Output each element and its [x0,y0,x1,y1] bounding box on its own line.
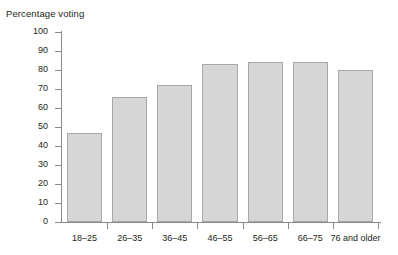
y-axis-tick-label: 90 [8,46,48,55]
bar [202,64,237,222]
bar [338,70,373,222]
y-axis-tick-label: 40 [8,141,48,150]
y-axis-tick-label: 60 [8,103,48,112]
x-axis-tick [378,223,379,229]
y-axis-tick [55,222,62,223]
y-axis-tick [55,203,62,204]
y-axis-tick-label: 0 [8,217,48,226]
y-axis-tick-label: 100 [8,27,48,36]
y-axis-tick-label: 70 [8,84,48,93]
y-axis-tick [55,127,62,128]
y-axis-tick-label: 30 [8,160,48,169]
bar [248,62,283,222]
y-axis-tick-label: 80 [8,65,48,74]
bar [293,62,328,222]
y-axis-tick [55,70,62,71]
x-axis-tick [288,223,289,229]
y-axis-tick [55,184,62,185]
x-axis-category-label: 76 and older [310,233,398,243]
y-axis-tick [55,89,62,90]
x-axis-tick [197,223,198,229]
bar [157,85,192,222]
y-axis-tick-label: 50 [8,122,48,131]
y-axis-tick [55,32,62,33]
x-axis-tick [333,223,334,229]
y-axis-tick-label: 20 [8,179,48,188]
y-axis-tick [55,146,62,147]
x-axis-tick [152,223,153,229]
y-axis-tick-label: 10 [8,198,48,207]
bar [112,97,147,222]
bar-chart: Percentage voting 0102030405060708090100… [0,0,398,255]
y-axis-tick [55,165,62,166]
x-axis-tick [107,223,108,229]
y-axis-tick [55,108,62,109]
x-axis-tick [243,223,244,229]
y-axis-tick [55,51,62,52]
bar [67,133,102,222]
chart-title: Percentage voting [6,8,84,19]
